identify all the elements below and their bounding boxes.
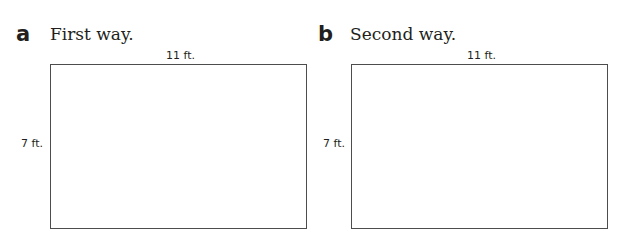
width-label-a: 11 ft. xyxy=(166,50,195,61)
rectangle-a xyxy=(50,64,307,229)
width-label-b: 11 ft. xyxy=(467,50,496,61)
height-label-b: 7 ft. xyxy=(323,138,345,149)
part-label-a: a xyxy=(16,24,30,45)
rectangle-b xyxy=(351,64,608,229)
part-heading-a: First way. xyxy=(50,26,134,43)
height-label-a: 7 ft. xyxy=(21,138,43,149)
part-heading-b: Second way. xyxy=(350,26,456,43)
part-label-b: b xyxy=(318,24,333,45)
